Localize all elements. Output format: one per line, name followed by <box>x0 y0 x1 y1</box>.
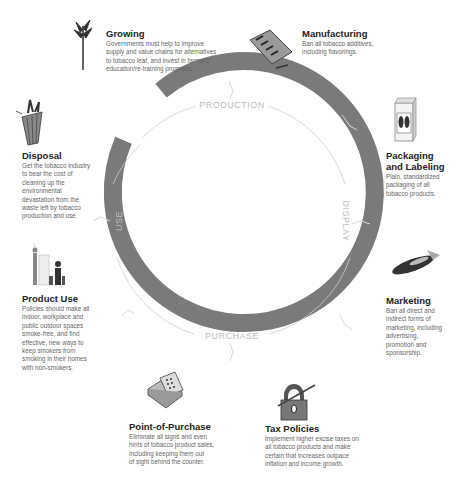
stage-marketing: Marketing Ban all direct and indirect fo… <box>386 295 456 357</box>
stage-title: Product Use <box>22 293 102 304</box>
stage-title: Growing <box>106 28 246 39</box>
smokers-icon <box>33 243 66 285</box>
stage-packaging: Packaging and Labeling Plain, standardiz… <box>386 150 456 198</box>
stage-product-use: Product Use Policies should make all ind… <box>22 293 102 372</box>
trash-bin-icon <box>16 100 42 145</box>
stage-description: Get the tobacco industry to bear the cos… <box>22 162 102 221</box>
stage-growing: Growing Governments must help to improve… <box>106 28 246 74</box>
stage-tax-policies: Tax Policies Implement higher excise tax… <box>265 423 395 469</box>
stage-title: Point-of-Purchase <box>129 421 249 432</box>
phase-label-purchase: PURCHASE <box>205 331 259 341</box>
cigarette-pack-icon <box>395 98 416 141</box>
stage-description: Governments must help to improve supply … <box>106 40 246 74</box>
stage-description: Eliminate all signs and even hints of to… <box>129 433 249 467</box>
stage-title: Manufacturing <box>302 28 422 39</box>
stage-title: Tax Policies <box>265 423 395 434</box>
tobacco-plant-icon <box>74 20 92 70</box>
stage-title: Disposal <box>22 150 102 161</box>
phase-label-production: PRODUCTION <box>199 100 265 110</box>
cash-register-icon <box>148 372 183 408</box>
stage-description: Ban all direct and indirect forms of mar… <box>386 307 456 357</box>
stage-point-of-purchase: Point-of-Purchase Eliminate all signs an… <box>129 421 249 467</box>
stage-disposal: Disposal Get the tobacco industry to bea… <box>22 150 102 221</box>
stage-title: Packaging and Labeling <box>386 150 456 172</box>
stage-description: Ban all tobacco additives, including fla… <box>302 40 422 57</box>
stage-description: Plain, standardized packaging of all tob… <box>386 173 456 198</box>
stage-description: Implement higher excise taxes on all tob… <box>265 435 395 469</box>
phase-label-use: USE <box>114 211 124 231</box>
stage-manufacturing: Manufacturing Ban all tobacco additives,… <box>302 28 422 57</box>
stage-title: Marketing <box>386 295 456 306</box>
phase-label-display: DISPLAY <box>341 201 351 242</box>
padlock-icon <box>278 384 315 420</box>
blimp-icon <box>390 250 440 278</box>
stage-description: Policies should make all indoor, workpla… <box>22 305 102 372</box>
